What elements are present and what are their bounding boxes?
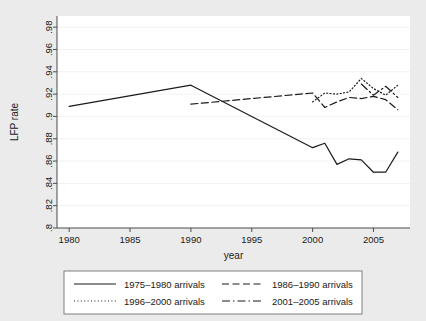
x-axis-title: year — [224, 250, 244, 261]
x-tick-label: 2005 — [363, 234, 384, 245]
legend: 1975–1980 arrivals1986–1990 arrivals1996… — [64, 271, 362, 314]
y-tick-label: .86 — [43, 154, 54, 167]
y-tick-label: .88 — [43, 132, 54, 145]
plot-area-background — [57, 16, 410, 228]
x-tick-label: 1980 — [59, 234, 80, 245]
legend-item-label: 1975–1980 arrivals — [124, 279, 205, 290]
legend-box — [64, 271, 362, 314]
y-tick-label: .94 — [43, 65, 54, 78]
y-tick-label: .96 — [43, 43, 54, 56]
x-tick-label: 2000 — [302, 234, 323, 245]
chart-figure: .8.82.84.86.88.9.92.94.96.98198019851990… — [0, 0, 426, 321]
legend-item-label: 2001–2005 arrivals — [272, 296, 353, 307]
y-tick-label: .9 — [43, 112, 54, 120]
y-tick-label: .98 — [43, 21, 54, 34]
y-tick-label: .8 — [43, 224, 54, 232]
y-tick-label: .82 — [43, 199, 54, 212]
y-axis-title: LFP rate — [9, 102, 20, 141]
lfp-rate-line-chart: .8.82.84.86.88.9.92.94.96.98198019851990… — [0, 0, 426, 321]
y-tick-label: .84 — [43, 177, 54, 190]
legend-item-label: 1996–2000 arrivals — [124, 296, 205, 307]
x-tick-label: 1985 — [119, 234, 140, 245]
y-tick-label: .92 — [43, 88, 54, 101]
x-tick-label: 1995 — [241, 234, 262, 245]
legend-item-label: 1986–1990 arrivals — [272, 279, 353, 290]
x-tick-label: 1990 — [180, 234, 201, 245]
